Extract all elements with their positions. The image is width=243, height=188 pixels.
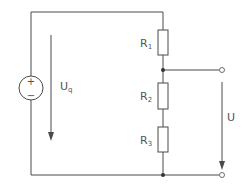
r3-label: R3 (140, 134, 152, 148)
output-voltage-label: U (227, 111, 235, 124)
junction-node-top (161, 68, 165, 72)
arrow-head-icon (219, 161, 225, 170)
r2-label: R2 (140, 90, 152, 104)
r1-label: R1 (140, 37, 152, 51)
output-terminal-top (220, 68, 225, 73)
circuit-diagram: + − Uq R1 R2 R3 U (0, 0, 243, 188)
output-terminal-bottom (220, 173, 225, 178)
plus-sign: + (27, 76, 35, 87)
source-voltage-label: Uq (60, 80, 73, 94)
wire-bottom (31, 100, 219, 175)
resistor-r2 (158, 83, 168, 109)
voltage-source: + − (19, 76, 43, 101)
junction-node-bottom (161, 173, 165, 177)
resistor-r1 (158, 30, 168, 55)
arrow-head-icon (48, 132, 54, 141)
output-voltage-arrow (219, 82, 225, 170)
resistor-r3 (158, 127, 168, 152)
source-voltage-arrow (48, 35, 54, 141)
minus-sign: − (27, 90, 35, 101)
wires (31, 12, 219, 175)
